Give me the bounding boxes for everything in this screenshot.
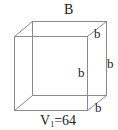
label-front-height: b bbox=[78, 66, 85, 79]
volume-value: =64 bbox=[54, 113, 76, 128]
front-face bbox=[15, 37, 88, 111]
label-depth-bottom: b bbox=[95, 101, 102, 114]
volume-label: V1=64 bbox=[40, 114, 76, 129]
edge-bottom-left bbox=[15, 96, 33, 111]
volume-symbol: V bbox=[40, 113, 50, 128]
label-back-height: b bbox=[107, 57, 114, 70]
edge-top-left bbox=[15, 22, 33, 37]
label-top-edge: B bbox=[64, 3, 73, 17]
cube-diagram: B b b b b V1=64 bbox=[0, 0, 118, 130]
label-depth-top: b bbox=[94, 27, 101, 40]
